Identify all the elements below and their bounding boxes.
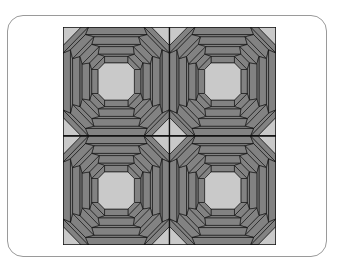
quilt-block xyxy=(170,27,277,136)
quilt-block xyxy=(170,136,277,245)
quilt-pattern xyxy=(63,27,276,245)
quilt-block xyxy=(63,136,170,245)
quilt-block xyxy=(63,27,170,136)
quilt-svg xyxy=(63,27,276,245)
